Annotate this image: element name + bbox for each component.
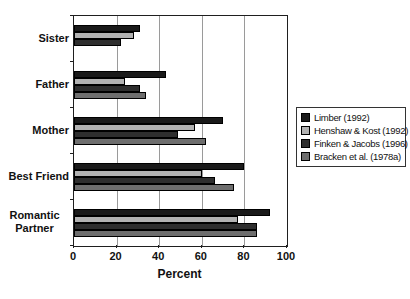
bar-slot [74, 25, 287, 32]
bar-finken-jacobs-1996-father [74, 85, 140, 92]
bar-slot [74, 39, 287, 46]
bar-group-romantic-partner [74, 200, 287, 246]
bar-group-father [74, 62, 287, 108]
bar-limber-1992-sister [74, 25, 140, 32]
bar-slot [74, 230, 287, 237]
bar-group-mother [74, 108, 287, 154]
bar-slot [74, 85, 287, 92]
bar-finken-jacobs-1996-mother [74, 131, 178, 138]
bar-henshaw-kost-1992-best-friend [74, 170, 202, 177]
legend-label: Finken & Jacobs (1996) [314, 138, 408, 149]
bar-henshaw-kost-1992-sister [74, 32, 134, 39]
bar-slot [74, 46, 287, 53]
bar-slot [74, 138, 287, 145]
bar-slot [74, 78, 287, 85]
legend-label: Limber (1992) [314, 112, 369, 123]
bar-limber-1992-romantic-partner [74, 209, 270, 216]
bar-slot [74, 163, 287, 170]
legend-swatch-icon [301, 113, 310, 122]
bar-group-sister [74, 16, 287, 62]
bar-bracken-et-al-1978a-romantic-partner [74, 230, 257, 237]
y-axis-tick [70, 107, 73, 108]
x-tick-label-60: 60 [195, 250, 207, 262]
x-tick-label-100: 100 [277, 250, 295, 262]
x-tick-label-20: 20 [109, 250, 121, 262]
category-label-best-friend: Best Friend [8, 170, 69, 183]
plot-area [73, 15, 288, 247]
category-label-romantic-partner: Romantic Partner [0, 209, 69, 234]
bar-chart-figure: Percent Limber (1992)Henshaw & Kost (199… [0, 0, 410, 299]
bar-finken-jacobs-1996-romantic-partner [74, 223, 257, 230]
bar-limber-1992-best-friend [74, 163, 244, 170]
legend-item-limber-1992: Limber (1992) [301, 111, 403, 124]
bar-bracken-et-al-1978a-father [74, 92, 146, 99]
legend-item-henshaw-kost-1992: Henshaw & Kost (1992) [301, 124, 403, 137]
bar-slot [74, 71, 287, 78]
bar-slot [74, 32, 287, 39]
bar-limber-1992-mother [74, 117, 223, 124]
bar-slot [74, 216, 287, 223]
bar-henshaw-kost-1992-father [74, 78, 125, 85]
y-axis-tick [70, 61, 73, 62]
x-tick-label-80: 80 [237, 250, 249, 262]
category-label-sister: Sister [38, 32, 69, 45]
bar-slot [74, 117, 287, 124]
x-tick-label-40: 40 [152, 250, 164, 262]
bar-slot [74, 177, 287, 184]
bar-henshaw-kost-1992-romantic-partner [74, 216, 238, 223]
bar-slot [74, 184, 287, 191]
bar-finken-jacobs-1996-best-friend [74, 177, 215, 184]
legend-swatch-icon [301, 152, 310, 161]
x-axis-title: Percent [73, 267, 286, 281]
legend-swatch-icon [301, 139, 310, 148]
y-axis-tick [70, 199, 73, 200]
bar-group-best-friend [74, 154, 287, 200]
legend-swatch-icon [301, 126, 310, 135]
category-label-mother: Mother [32, 124, 69, 137]
bar-slot [74, 92, 287, 99]
bar-finken-jacobs-1996-sister [74, 39, 121, 46]
bar-bracken-et-al-1978a-mother [74, 138, 206, 145]
legend-item-finken-jacobs-1996: Finken & Jacobs (1996) [301, 137, 403, 150]
bar-henshaw-kost-1992-mother [74, 124, 195, 131]
bar-slot [74, 124, 287, 131]
legend-item-bracken-et-al-1978a: Bracken et al. (1978a) [301, 150, 403, 163]
y-axis-tick [70, 153, 73, 154]
legend-label: Henshaw & Kost (1992) [314, 125, 408, 136]
bar-bracken-et-al-1978a-best-friend [74, 184, 234, 191]
y-axis-tick [70, 15, 73, 16]
bar-slot [74, 131, 287, 138]
legend-label: Bracken et al. (1978a) [314, 151, 401, 162]
bar-limber-1992-father [74, 71, 166, 78]
legend: Limber (1992)Henshaw & Kost (1992)Finken… [296, 107, 406, 167]
x-tick-label-0: 0 [70, 250, 76, 262]
category-label-father: Father [35, 78, 69, 91]
bar-slot [74, 209, 287, 216]
bar-slot [74, 170, 287, 177]
bar-slot [74, 223, 287, 230]
